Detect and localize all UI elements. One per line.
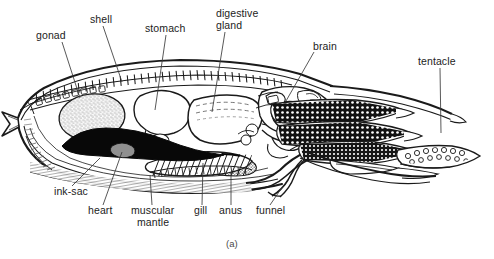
label-gonad: gonad [36,30,66,42]
label-stomach: stomach [145,23,185,35]
figure-caption: (a) [226,238,238,249]
leader-tentacle [440,68,441,133]
label-ink-sac: ink-sac [54,186,88,198]
label-digestive-gland: gland [216,20,242,32]
anatomy-diagram [0,0,494,259]
label-anus: anus [219,205,242,217]
label-mantle: mantle [137,217,169,229]
tentacle-arms [271,98,480,184]
anatomy-figure: gonad shell stomach digestive gland brai… [0,0,494,259]
label-gill: gill [194,205,207,217]
digestive-gland [188,95,262,144]
label-heart: heart [88,205,112,217]
label-digestive: digestive [216,8,258,20]
label-shell: shell [90,14,112,26]
label-funnel: funnel [256,205,285,217]
label-muscular: muscular [131,205,174,217]
label-tentacle: tentacle [418,56,456,68]
heart-organ [110,143,135,158]
label-brain: brain [313,41,337,53]
